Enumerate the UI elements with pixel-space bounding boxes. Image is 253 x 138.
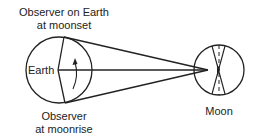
label-observer-moonrise-line2: at moonrise bbox=[35, 123, 92, 135]
label-observer-moonset-line1: Observer on Earth bbox=[19, 6, 109, 18]
sight-line-moonset bbox=[64, 37, 208, 70]
earth-radius-moonset bbox=[58, 37, 64, 70]
label-observer-moonset-line2: at moonset bbox=[37, 19, 91, 31]
sight-lines bbox=[58, 37, 208, 103]
moonrise-moonset-diagram: Observer on Earth at moonset Earth M bbox=[0, 0, 253, 138]
rotation-arrowhead-icon bbox=[73, 58, 78, 65]
earth-radius-moonrise bbox=[58, 70, 65, 103]
moon: Moon bbox=[194, 45, 244, 117]
sight-line-moonrise bbox=[65, 70, 208, 103]
label-moon: Moon bbox=[205, 105, 233, 117]
label-earth: Earth bbox=[28, 64, 54, 76]
label-observer-moonrise-line1: Observer bbox=[41, 110, 87, 122]
rotation-arrow-icon bbox=[73, 62, 77, 89]
